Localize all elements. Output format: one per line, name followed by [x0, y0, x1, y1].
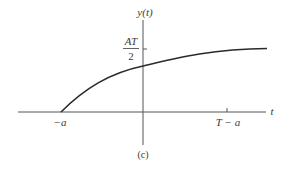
figure: y(t) AT 2 t −a T − a (c): [0, 0, 285, 171]
xtick-label-minus-a: −a: [54, 116, 67, 128]
ytick-denominator: 2: [128, 50, 134, 62]
x-axis-label: t: [270, 105, 274, 117]
plot-svg: y(t) AT 2 t −a T − a (c): [0, 0, 285, 171]
xtick-label-t-minus-a: T − a: [216, 116, 241, 128]
figure-caption: (c): [137, 149, 148, 161]
y-axis-label: y(t): [136, 6, 153, 19]
ytick-numerator: AT: [124, 35, 138, 47]
response-curve: [61, 49, 267, 113]
